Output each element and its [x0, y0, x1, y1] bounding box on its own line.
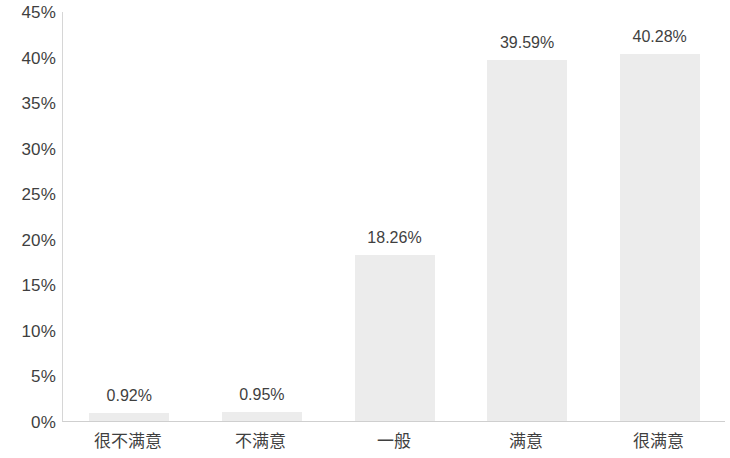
- bars-layer: 0.92%0.95%18.26%39.59%40.28%: [63, 12, 725, 421]
- y-axis-tick-label: 40%: [0, 49, 56, 66]
- bar-value-label: 18.26%: [367, 230, 421, 246]
- x-axis: 很不满意不满意一般满意很满意: [62, 426, 725, 458]
- bar-value-label: 0.95%: [239, 387, 284, 403]
- y-axis-tick-label: 20%: [0, 231, 56, 248]
- bar-chart: 0%5%10%15%20%25%30%35%40%45% 0.92%0.95%1…: [0, 0, 730, 458]
- bar-slot: 40.28%: [620, 12, 700, 421]
- y-axis-tick-label: 30%: [0, 140, 56, 157]
- bar-slot: 0.92%: [89, 12, 169, 421]
- bar-slot: 39.59%: [487, 12, 567, 421]
- bar-value-label: 0.92%: [107, 388, 152, 404]
- x-axis-tick-label: 不满意: [235, 430, 286, 454]
- plot-area: 0.92%0.95%18.26%39.59%40.28%: [62, 12, 725, 422]
- bar[interactable]: [89, 413, 169, 421]
- y-axis-tick-label: 15%: [0, 277, 56, 294]
- y-axis-tick-label: 0%: [0, 414, 56, 431]
- bar-value-label: 40.28%: [633, 29, 687, 45]
- bar[interactable]: [355, 255, 435, 421]
- x-axis-tick-label: 很满意: [633, 430, 684, 454]
- bar[interactable]: [222, 412, 302, 421]
- bar-value-label: 39.59%: [500, 35, 554, 51]
- x-axis-tick-label: 很不满意: [94, 430, 162, 454]
- x-axis-tick-label: 满意: [509, 430, 543, 454]
- bar[interactable]: [620, 54, 700, 421]
- y-axis-tick-label: 45%: [0, 4, 56, 21]
- y-axis-tick-label: 35%: [0, 95, 56, 112]
- bar-slot: 0.95%: [222, 12, 302, 421]
- bar-slot: 18.26%: [355, 12, 435, 421]
- y-axis-tick-label: 10%: [0, 322, 56, 339]
- y-axis-tick-label: 25%: [0, 186, 56, 203]
- y-axis-tick-label: 5%: [0, 368, 56, 385]
- bar[interactable]: [487, 60, 567, 421]
- x-axis-tick-label: 一般: [377, 430, 411, 454]
- y-axis: 0%5%10%15%20%25%30%35%40%45%: [0, 0, 56, 458]
